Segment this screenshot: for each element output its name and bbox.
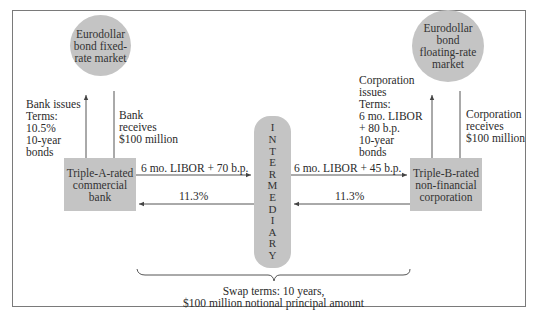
swap-terms-line2: $100 million notional principal amount <box>0 297 547 309</box>
corp-issues-label: Corporation issues Terms: 6 mo. LIBOR + … <box>359 74 423 158</box>
corp-receives-rate-label: 6 mo. LIBOR + 45 b.p. <box>294 162 401 174</box>
bank-receives-rate-label: 11.3% <box>179 190 208 202</box>
swap-terms-line1: Swap terms: 10 years, <box>0 285 547 297</box>
bank-issues-label: Bank issues Terms: 10.5% 10-year bonds <box>26 98 81 158</box>
intermediary-letter: Y <box>269 250 277 262</box>
corp-pays-label: 11.3% <box>335 190 364 202</box>
swap-terms-text-2: $100 million notional principal amount <box>183 297 364 309</box>
bank-pays-label: 6 mo. LIBOR + 70 b.p. <box>141 162 248 174</box>
intermediary-letter: E <box>269 192 276 204</box>
fixed-rate-market-node: Eurodollar bond fixed- rate market <box>70 15 131 76</box>
intermediary-node: INTERMEDIARY <box>254 116 291 268</box>
swap-brace <box>137 269 410 281</box>
bank-node: Triple-A-rated commercial bank <box>64 158 136 211</box>
swap-terms-text-1: Swap terms: 10 years, <box>223 285 325 297</box>
intermediary-letter: N <box>269 134 277 146</box>
corp-receives-label: Corporation receives $100 million <box>466 108 525 144</box>
corporation-node: Triple-B-rated non-financial corporation <box>410 158 482 211</box>
bank-receives-label: Bank receives $100 million <box>119 109 178 145</box>
floating-rate-market-node: Eurodollar bond floating-rate market <box>412 10 484 82</box>
